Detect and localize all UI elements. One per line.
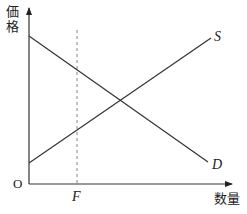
y-axis-label: 価 格 xyxy=(4,4,20,34)
demand-curve xyxy=(29,36,208,162)
origin-label: O xyxy=(13,177,22,190)
diagram-canvas xyxy=(0,0,247,214)
x-axis-label: 数量 xyxy=(214,192,240,205)
y-axis-label-char-2: 格 xyxy=(4,19,20,34)
supply-curve-label: S xyxy=(214,30,221,44)
demand-curve-label: D xyxy=(212,158,222,172)
supply-demand-diagram: 価 格 数量 O F S D xyxy=(0,0,247,214)
f-marker-label: F xyxy=(72,190,81,204)
y-axis-label-char-1: 価 xyxy=(4,4,20,19)
